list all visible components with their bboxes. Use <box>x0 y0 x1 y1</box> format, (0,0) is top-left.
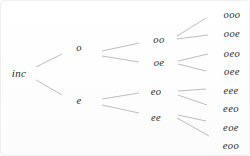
tree-node-oeo: oeo <box>224 49 240 60</box>
edge-e-eo <box>102 93 139 99</box>
tree-node-eeo: eeo <box>223 104 239 115</box>
tree-node-oee: oee <box>224 67 240 78</box>
tree-node-ee: ee <box>151 113 161 124</box>
edge-ee-eoe <box>178 115 206 121</box>
edge-oo-ooo <box>177 18 206 36</box>
tree-edges <box>1 1 250 156</box>
tree-node-o: o <box>76 43 82 54</box>
tree-node-oo: oo <box>153 35 164 46</box>
tree-node-eo: eo <box>151 87 162 98</box>
edge-inc-o <box>36 54 62 67</box>
tree-node-oe: oe <box>154 58 165 69</box>
edge-e-ee <box>102 105 139 113</box>
tree-node-inc: inc <box>12 68 27 79</box>
tree-diagram: inc o e oo oe eo ee ooo ooe oeo oee eee … <box>0 0 250 156</box>
edge-oe-oeo <box>178 54 208 61</box>
edge-eo-eeo <box>178 95 207 105</box>
edge-oe-oee <box>178 64 206 71</box>
tree-node-e: e <box>76 96 81 107</box>
tree-node-eee: eee <box>223 86 238 97</box>
edge-oo-ooe <box>177 35 208 39</box>
tree-node-eoo: eoo <box>223 141 239 152</box>
tree-node-ooo: ooo <box>224 10 241 21</box>
tree-node-ooe: ooe <box>224 29 240 40</box>
tree-node-eoe: eoe <box>223 123 239 134</box>
edge-inc-e <box>36 80 62 95</box>
edge-eo-eee <box>178 89 206 91</box>
edge-o-oo <box>102 43 139 51</box>
edge-o-oe <box>102 56 139 62</box>
